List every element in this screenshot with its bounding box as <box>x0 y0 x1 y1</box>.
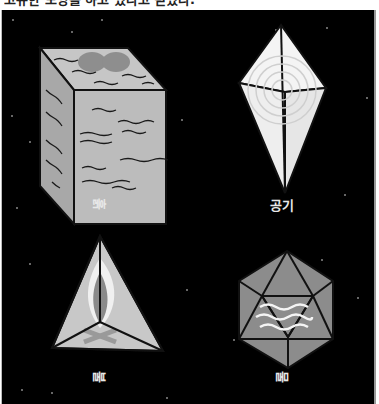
fire-tetrahedron <box>52 236 163 351</box>
illustration-panel: 흙 공기 불 물 <box>1 10 376 404</box>
label-fire: 불 <box>91 371 110 383</box>
air-octahedron <box>239 25 326 193</box>
label-air: 공기 <box>270 195 294 214</box>
label-earth: 흙 <box>91 198 110 210</box>
platonic-solids-illustration <box>2 10 377 404</box>
label-water: 물 <box>274 371 293 383</box>
water-icosahedron <box>239 251 333 368</box>
caption-text: 고유한 모양을 하고 있다고 믿었다. <box>4 0 374 8</box>
